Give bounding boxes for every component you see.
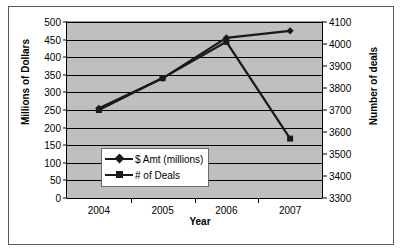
y-axis-left-tick-label: 50: [27, 175, 61, 186]
data-point-square: [287, 136, 293, 142]
x-axis-tick-mark: [258, 198, 259, 203]
y-axis-right-tick-mark: [322, 88, 327, 89]
y-axis-right-title: Number of deals: [368, 16, 384, 156]
y-axis-left-tick-label: 400: [27, 52, 61, 63]
data-point-square: [96, 107, 102, 113]
data-point-square: [160, 75, 166, 81]
y-axis-right-tick-label: 3800: [329, 83, 363, 94]
x-axis-tick-label: 2004: [88, 205, 110, 216]
y-axis-left-tick-label: 350: [27, 69, 61, 80]
chart-legend: $ Amt (millions) # of Deals: [101, 148, 209, 187]
y-axis-right-tick-mark: [322, 66, 327, 67]
y-axis-right-tick-label: 3400: [329, 171, 363, 182]
y-axis-right-tick-label: 3700: [329, 105, 363, 116]
data-point-square: [223, 39, 229, 45]
line-deals: [99, 42, 290, 139]
legend-item-amount: $ Amt (millions): [105, 151, 203, 167]
x-axis-tick-mark: [195, 198, 196, 203]
y-axis-right-tick-mark: [322, 22, 327, 23]
legend-label-deals: # of Deals: [135, 170, 180, 181]
y-axis-left-tick-label: 250: [27, 105, 61, 116]
y-axis-right-tick-mark: [322, 110, 327, 111]
y-axis-right-tick-mark: [322, 198, 327, 199]
y-axis-left-tick-label: 500: [27, 17, 61, 28]
x-axis-tick-label: 2006: [215, 205, 237, 216]
y-axis-left-tick-label: 450: [27, 34, 61, 45]
y-axis-left-tick-label: 150: [27, 140, 61, 151]
y-axis-left-tick-label: 300: [27, 87, 61, 98]
y-axis-right-tick-mark: [322, 132, 327, 133]
x-axis-title: Year: [56, 216, 344, 227]
y-axis-left-tick-label: 200: [27, 122, 61, 133]
data-point-diamond: [287, 27, 294, 34]
square-marker-icon: [105, 169, 133, 181]
y-axis-right-tick-mark: [322, 154, 327, 155]
y-axis-right-tick-label: 4000: [329, 39, 363, 50]
y-axis-right-tick-label: 3900: [329, 61, 363, 72]
y-axis-right-tick-label: 3600: [329, 127, 363, 138]
x-axis-tick-label: 2005: [152, 205, 174, 216]
plot-area: 050100150200250300350400450500 330034003…: [66, 21, 323, 198]
y-axis-right-tick-label: 3300: [329, 193, 363, 204]
x-axis-tick-label: 2007: [279, 205, 301, 216]
diamond-marker-icon: [105, 153, 133, 165]
y-axis-left-tick-label: 0: [27, 193, 61, 204]
y-axis-right-tick-label: 3500: [329, 149, 363, 160]
y-axis-right-tick-label: 4100: [329, 17, 363, 28]
chart-figure: Millions of Dollars Number of deals Year…: [0, 0, 402, 252]
legend-label-amount: $ Amt (millions): [135, 154, 203, 165]
y-axis-right-tick-mark: [322, 176, 327, 177]
legend-item-deals: # of Deals: [105, 167, 203, 183]
y-axis-right-tick-mark: [322, 44, 327, 45]
x-axis-tick-mark: [131, 198, 132, 203]
y-axis-left-tick-label: 100: [27, 157, 61, 168]
